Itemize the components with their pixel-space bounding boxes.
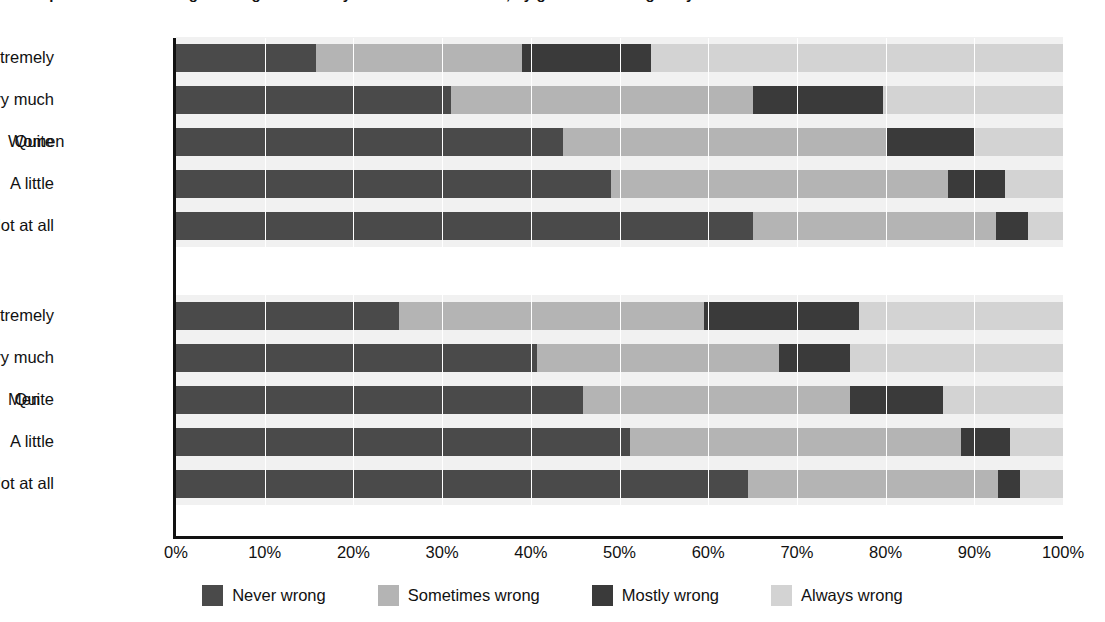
bar-segment-mostly-wrong bbox=[779, 344, 850, 372]
gridline-60 bbox=[708, 38, 709, 536]
bar-segment-sometimes-wrong bbox=[630, 428, 961, 456]
bar-segment-mostly-wrong bbox=[704, 302, 859, 330]
bar-segment-sometimes-wrong bbox=[583, 386, 850, 414]
bar-segment-never-wrong bbox=[176, 428, 630, 456]
bar-segment-mostly-wrong bbox=[998, 470, 1020, 498]
bar-segment-mostly-wrong bbox=[961, 428, 1010, 456]
legend-label: Never wrong bbox=[232, 586, 326, 605]
bar-segment-mostly-wrong bbox=[753, 86, 883, 114]
bar-segment-always-wrong bbox=[1005, 170, 1063, 198]
legend-label: Mostly wrong bbox=[622, 586, 719, 605]
bar-segment-mostly-wrong bbox=[850, 386, 943, 414]
x-axis-line bbox=[173, 536, 1063, 539]
y-axis-label: A little bbox=[0, 432, 54, 451]
x-tick-40: 40% bbox=[496, 543, 566, 562]
x-tick-90: 90% bbox=[939, 543, 1009, 562]
gridline-50 bbox=[620, 38, 621, 536]
bar-segment-sometimes-wrong bbox=[563, 128, 886, 156]
legend-swatch-icon bbox=[771, 585, 792, 606]
y-axis-label: Not at all bbox=[0, 474, 54, 493]
gridline-100 bbox=[1063, 38, 1064, 536]
bar-segment-never-wrong bbox=[176, 344, 537, 372]
gridline-20 bbox=[353, 38, 354, 536]
y-axis-label: Extremely bbox=[0, 306, 54, 325]
group-label-women: Women bbox=[8, 132, 126, 151]
bar-segment-never-wrong bbox=[176, 302, 399, 330]
bar-segment-never-wrong bbox=[176, 170, 611, 198]
gridline-30 bbox=[442, 38, 443, 536]
bar-segment-sometimes-wrong bbox=[537, 344, 779, 372]
x-tick-60: 60% bbox=[673, 543, 743, 562]
bar-segment-always-wrong bbox=[651, 44, 1063, 72]
bar-segment-always-wrong bbox=[1020, 470, 1063, 498]
legend-swatch-icon bbox=[202, 585, 223, 606]
x-tick-70: 70% bbox=[762, 543, 832, 562]
bar-segment-always-wrong bbox=[974, 128, 1063, 156]
x-tick-50: 50% bbox=[585, 543, 655, 562]
x-tick-80: 80% bbox=[851, 543, 921, 562]
bar-segment-always-wrong bbox=[850, 344, 1063, 372]
x-tick-100: 100% bbox=[1028, 543, 1098, 562]
group-label-men: Men bbox=[8, 390, 126, 409]
bar-segment-always-wrong bbox=[1028, 212, 1063, 240]
gridline-90 bbox=[974, 38, 975, 536]
bar-segment-always-wrong bbox=[883, 86, 1063, 114]
bar-segment-never-wrong bbox=[176, 44, 316, 72]
y-axis-label: A little bbox=[0, 174, 54, 193]
bar-segment-sometimes-wrong bbox=[611, 170, 948, 198]
plot-area bbox=[176, 38, 1063, 536]
bar-segment-never-wrong bbox=[176, 470, 748, 498]
bar-segment-sometimes-wrong bbox=[753, 212, 997, 240]
x-tick-20: 20% bbox=[318, 543, 388, 562]
bar-segment-always-wrong bbox=[1010, 428, 1063, 456]
x-tick-0: 0% bbox=[141, 543, 211, 562]
bar-segment-sometimes-wrong bbox=[748, 470, 998, 498]
x-tick-10: 10% bbox=[230, 543, 300, 562]
gridline-80 bbox=[886, 38, 887, 536]
bar-segment-mostly-wrong bbox=[522, 44, 651, 72]
legend-label: Always wrong bbox=[801, 586, 903, 605]
chart-title: Perceptions of how wrong it is to get a … bbox=[8, 0, 694, 2]
legend-swatch-icon bbox=[592, 585, 613, 606]
legend-swatch-icon bbox=[378, 585, 399, 606]
bar-segment-never-wrong bbox=[176, 128, 563, 156]
y-axis-label: Very much bbox=[0, 348, 54, 367]
y-axis-label: Very much bbox=[0, 90, 54, 109]
bar-segment-mostly-wrong bbox=[996, 212, 1027, 240]
legend-item[interactable]: Never wrong bbox=[202, 585, 326, 606]
chart-legend: Never wrongSometimes wrongMostly wrongAl… bbox=[0, 585, 1105, 606]
gridline-70 bbox=[797, 38, 798, 536]
bar-segment-mostly-wrong bbox=[886, 128, 975, 156]
legend-item[interactable]: Sometimes wrong bbox=[378, 585, 540, 606]
bar-segment-always-wrong bbox=[943, 386, 1063, 414]
y-axis-label: Extremely bbox=[0, 48, 54, 67]
bar-segment-sometimes-wrong bbox=[316, 44, 522, 72]
bar-segment-sometimes-wrong bbox=[399, 302, 704, 330]
bar-segment-never-wrong bbox=[176, 86, 451, 114]
bar-segment-mostly-wrong bbox=[948, 170, 1006, 198]
legend-label: Sometimes wrong bbox=[408, 586, 540, 605]
bar-segment-never-wrong bbox=[176, 212, 753, 240]
legend-item[interactable]: Mostly wrong bbox=[592, 585, 719, 606]
x-tick-30: 30% bbox=[407, 543, 477, 562]
gridline-40 bbox=[531, 38, 532, 536]
bar-segment-never-wrong bbox=[176, 386, 583, 414]
y-axis-label: Not at all bbox=[0, 216, 54, 235]
gridline-10 bbox=[265, 38, 266, 536]
legend-item[interactable]: Always wrong bbox=[771, 585, 903, 606]
bar-segment-always-wrong bbox=[859, 302, 1063, 330]
